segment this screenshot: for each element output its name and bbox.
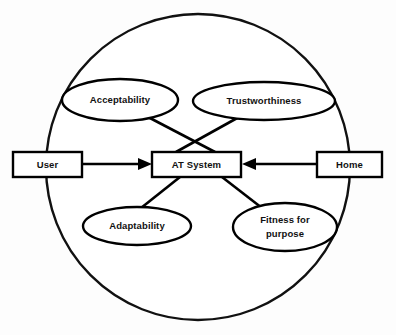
- node-trustworthiness[interactable]: Trustworthiness: [193, 82, 335, 120]
- node-adaptability[interactable]: Adaptability: [83, 207, 191, 245]
- home-label: Home: [336, 159, 363, 170]
- adaptability-label: Adaptability: [109, 220, 165, 231]
- trustworthiness-label: Trustworthiness: [227, 95, 302, 106]
- fitness-for-purpose-label-line1: Fitness for: [260, 214, 310, 225]
- node-home[interactable]: Home: [317, 152, 382, 177]
- at-system-label: AT System: [172, 159, 221, 170]
- node-fitness-for-purpose[interactable]: Fitness for purpose: [233, 203, 337, 251]
- node-user[interactable]: User: [13, 152, 82, 177]
- diagram-svg: AT System User Home Acceptability Trustw…: [0, 0, 396, 335]
- user-label: User: [37, 159, 59, 170]
- acceptability-label: Acceptability: [90, 94, 151, 105]
- node-at-system[interactable]: AT System: [152, 152, 241, 177]
- node-acceptability[interactable]: Acceptability: [62, 79, 178, 121]
- diagram-canvas: AT System User Home Acceptability Trustw…: [0, 0, 396, 335]
- fitness-for-purpose-label-line2: purpose: [266, 228, 304, 239]
